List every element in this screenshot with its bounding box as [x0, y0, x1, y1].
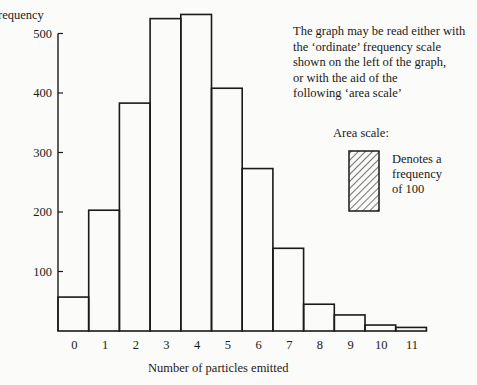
- x-tick-label: 1: [102, 338, 108, 352]
- y-tick-label: 200: [33, 205, 52, 219]
- x-tick-labels: 01234567891011: [71, 338, 418, 352]
- x-tick-label: 0: [71, 338, 77, 352]
- histogram-bar: [119, 103, 150, 331]
- reading-note: The graph may be read either with the ‘o…: [293, 24, 477, 102]
- histogram-bar: [242, 169, 273, 331]
- histogram-bar: [212, 88, 243, 331]
- area-scale-swatch: [349, 151, 379, 211]
- x-tick-label: 4: [194, 338, 201, 352]
- histogram-bar: [150, 19, 181, 331]
- x-tick-label: 9: [348, 338, 354, 352]
- y-tick-label: 100: [33, 265, 52, 279]
- area-scale-title: Area scale:: [333, 126, 389, 141]
- x-tick-label: 7: [286, 338, 292, 352]
- histogram-bar: [396, 327, 427, 331]
- x-tick-label: 6: [255, 338, 261, 352]
- y-axis-label: requency: [0, 8, 44, 23]
- x-tick-label: 3: [163, 338, 169, 352]
- area-scale-description: Denotes a frequency of 100: [392, 152, 442, 197]
- histogram-bar: [89, 210, 120, 331]
- histogram-bar: [58, 297, 89, 331]
- histogram-bar: [273, 248, 304, 331]
- histogram-bar: [334, 315, 365, 331]
- histogram-bar: [365, 325, 396, 331]
- x-tick-label: 10: [375, 338, 388, 352]
- x-tick-label: 11: [406, 338, 418, 352]
- x-tick-label: 2: [133, 338, 139, 352]
- y-tick-label: 400: [33, 86, 52, 100]
- y-axis: 100200300400500: [33, 27, 63, 332]
- x-axis-label: Number of particles emitted: [148, 361, 289, 376]
- x-tick-label: 8: [317, 338, 323, 352]
- y-tick-label: 300: [33, 146, 52, 160]
- x-tick-label: 5: [225, 338, 231, 352]
- histogram-bar: [304, 304, 335, 331]
- histogram-bar: [181, 14, 212, 331]
- y-tick-label: 500: [33, 27, 52, 41]
